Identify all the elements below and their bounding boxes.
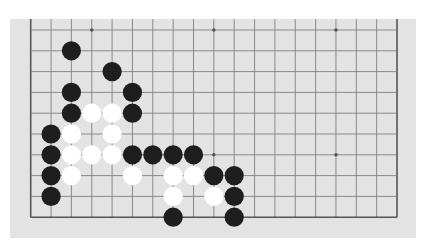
black-stone[interactable] [123,83,142,102]
star-point [212,153,216,157]
black-stone[interactable] [41,187,60,206]
white-stone[interactable] [103,104,122,123]
black-stone[interactable] [62,104,81,123]
white-stone[interactable] [82,145,101,164]
white-stone[interactable] [204,187,223,206]
star-point [90,28,94,32]
black-stone[interactable] [41,166,60,185]
white-stone[interactable] [62,145,81,164]
go-diagram [0,0,430,246]
black-stone[interactable] [204,166,223,185]
white-stone[interactable] [103,145,122,164]
black-stone[interactable] [225,166,244,185]
white-stone[interactable] [103,124,122,143]
black-stone[interactable] [225,208,244,227]
black-stone[interactable] [164,208,183,227]
white-stone[interactable] [123,166,142,185]
white-stone[interactable] [184,166,203,185]
black-stone[interactable] [62,83,81,102]
black-stone[interactable] [41,124,60,143]
white-stone[interactable] [164,166,183,185]
black-stone[interactable] [103,62,122,81]
board-grid [10,19,416,238]
white-stone[interactable] [82,104,101,123]
black-stone[interactable] [184,145,203,164]
black-stone[interactable] [123,145,142,164]
white-stone[interactable] [62,124,81,143]
black-stone[interactable] [123,104,142,123]
black-stone[interactable] [143,145,162,164]
star-point [334,153,338,157]
white-stone[interactable] [164,187,183,206]
star-point [212,28,216,32]
black-stone[interactable] [62,41,81,60]
black-stone[interactable] [41,145,60,164]
black-stone[interactable] [164,145,183,164]
go-board[interactable] [10,19,416,238]
star-point [334,28,338,32]
white-stone[interactable] [62,166,81,185]
black-stone[interactable] [225,187,244,206]
